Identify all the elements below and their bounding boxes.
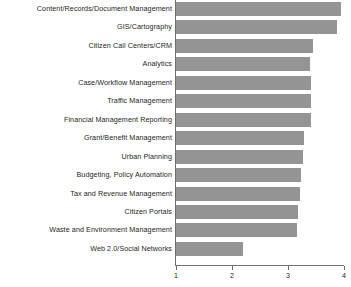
bar-fill <box>176 223 297 237</box>
category-label: Budgeting, Policy Automation <box>0 171 172 179</box>
category-label: Case/Workflow Management <box>0 79 172 87</box>
category-label: Urban Planning <box>0 153 172 161</box>
x-axis-tick-label: 2 <box>224 271 240 280</box>
bar-fill <box>176 2 341 16</box>
bar-fill <box>176 131 304 145</box>
bar <box>176 2 341 16</box>
bar <box>176 168 301 182</box>
category-label-column: Content/Records/Document ManagementGIS/C… <box>0 0 172 263</box>
category-label: Citizen Call Centers/CRM <box>0 42 172 50</box>
category-label: Financial Management Reporting <box>0 116 172 124</box>
category-label: Content/Records/Document Management <box>0 5 172 13</box>
bar-fill <box>176 76 311 90</box>
bar-fill <box>176 168 301 182</box>
plot-area <box>176 0 344 265</box>
bar-fill <box>176 57 310 71</box>
bar <box>176 242 243 256</box>
x-axis-tick <box>288 266 289 270</box>
bar <box>176 113 311 127</box>
bar <box>176 39 313 53</box>
category-label: Web 2.0/Social Networks <box>0 245 172 253</box>
bar <box>176 76 311 90</box>
bar <box>176 150 303 164</box>
bar-fill <box>176 242 243 256</box>
bar-chart: Content/Records/Document ManagementGIS/C… <box>0 0 351 287</box>
x-axis-tick <box>232 266 233 270</box>
x-axis-tick <box>176 266 177 270</box>
bar <box>176 205 298 219</box>
category-label: Analytics <box>0 60 172 68</box>
category-label: Tax and Revenue Management <box>0 190 172 198</box>
x-axis-tick <box>344 266 345 270</box>
x-axis-line <box>175 265 344 266</box>
bar-fill <box>176 20 337 34</box>
bar-fill <box>176 205 298 219</box>
category-label: Traffic Management <box>0 97 172 105</box>
bar <box>176 94 311 108</box>
bar <box>176 187 300 201</box>
bar-fill <box>176 39 313 53</box>
category-label: Citizen Portals <box>0 208 172 216</box>
bar-fill <box>176 113 311 127</box>
bar <box>176 20 337 34</box>
category-label: GIS/Cartography <box>0 23 172 31</box>
y-axis-line <box>175 0 176 266</box>
x-axis-tick-label: 3 <box>280 271 296 280</box>
x-axis-tick-label: 4 <box>336 271 351 280</box>
category-label: Grant/Benefit Management <box>0 134 172 142</box>
category-label: Waste and Environment Management <box>0 226 172 234</box>
bar <box>176 223 297 237</box>
bar <box>176 57 310 71</box>
bar <box>176 131 304 145</box>
bar-fill <box>176 94 311 108</box>
bar-fill <box>176 187 300 201</box>
bar-fill <box>176 150 303 164</box>
x-axis-tick-label: 1 <box>168 271 184 280</box>
